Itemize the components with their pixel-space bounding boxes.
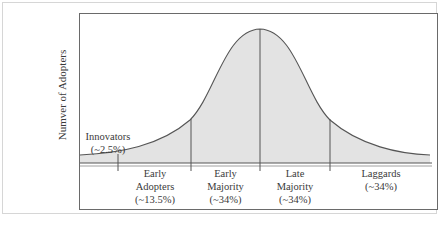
- segment-label-late-majority: Late Majority (~34%): [261, 167, 329, 206]
- segment-label-laggards: Laggards (~34%): [331, 167, 431, 193]
- early-majority-share: (~34%): [192, 193, 259, 206]
- early-majority-line1: Early: [192, 167, 259, 180]
- curve-fill: [80, 29, 430, 163]
- early-adopters-line2: Adopters: [120, 180, 190, 193]
- early-adopters-line1: Early: [120, 167, 190, 180]
- innovators-name: Innovators: [84, 130, 132, 143]
- late-majority-line1: Late: [261, 167, 329, 180]
- innovators-share: (~2.5%): [84, 143, 132, 156]
- early-majority-line2: Majority: [192, 180, 259, 193]
- y-axis-label: Numver of Adopters: [56, 50, 68, 140]
- segment-label-early-adopters: Early Adopters (~13.5%): [120, 167, 190, 206]
- early-adopters-share: (~13.5%): [120, 193, 190, 206]
- segment-label-innovators: Innovators (~2.5%): [84, 130, 132, 156]
- laggards-share: (~34%): [331, 180, 431, 193]
- laggards-name: Laggards: [331, 167, 431, 180]
- late-majority-share: (~34%): [261, 193, 329, 206]
- late-majority-line2: Majority: [261, 180, 329, 193]
- segment-label-early-majority: Early Majority (~34%): [192, 167, 259, 206]
